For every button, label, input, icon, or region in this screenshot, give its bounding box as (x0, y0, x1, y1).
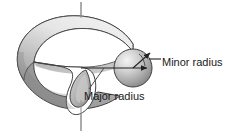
major-radius-label: Major radius (84, 90, 145, 102)
minor-radius-label: Minor radius (162, 56, 223, 68)
torus-diagram-figure: Minor radius Major radius (0, 0, 227, 133)
